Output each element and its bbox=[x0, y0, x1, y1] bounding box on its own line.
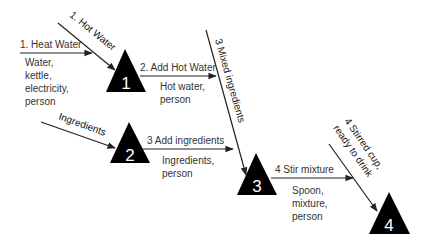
edge-heat-water: 1. Heat Water Water, kettle, electricity… bbox=[20, 39, 92, 107]
add-hot-water-resource-1: Hot water, bbox=[160, 81, 205, 92]
node-3[interactable]: 3 bbox=[237, 153, 277, 196]
add-ingredients-resource-2: person bbox=[162, 168, 193, 179]
stir-mixture-resource-1: Spoon, bbox=[292, 185, 324, 196]
heat-water-resource-4: person bbox=[25, 96, 56, 107]
node-1-label: 1 bbox=[121, 74, 130, 93]
process-diagram: 1. Heat Water Water, kettle, electricity… bbox=[0, 0, 429, 249]
node-4-label: 4 bbox=[384, 216, 393, 235]
node-2-label: 2 bbox=[125, 146, 134, 165]
add-hot-water-resource-2: person bbox=[160, 94, 191, 105]
stir-mixture-label: 4 Stir mixture bbox=[275, 164, 334, 175]
edge-stir-mixture: 4 Stir mixture Spoon, mixture, person bbox=[271, 164, 353, 222]
heat-water-label: 1. Heat Water bbox=[20, 39, 82, 50]
edge-add-ingredients: 3 Add ingredients Ingredients, person bbox=[143, 135, 233, 179]
mixed-ingredients-label: 3 Mixed ingredients bbox=[213, 38, 247, 124]
ingredients-label: Ingredients bbox=[57, 111, 107, 138]
node-2[interactable]: 2 bbox=[110, 122, 150, 165]
heat-water-resource-3: electricity, bbox=[25, 83, 69, 94]
node-4[interactable]: 4 bbox=[369, 192, 410, 235]
heat-water-resource-2: kettle, bbox=[25, 70, 52, 81]
edge-stirred-cup: 4 Stirred cup, ready to drink bbox=[329, 116, 385, 211]
add-ingredients-label: 3 Add ingredients bbox=[147, 135, 224, 146]
edge-mixed-ingredients: 3 Mixed ingredients bbox=[206, 30, 248, 175]
add-hot-water-label: 2. Add Hot Water bbox=[140, 62, 216, 73]
add-ingredients-resource-1: Ingredients, bbox=[162, 155, 214, 166]
stir-mixture-resource-3: person bbox=[292, 211, 323, 222]
heat-water-resource-1: Water, bbox=[25, 57, 54, 68]
node-3-label: 3 bbox=[252, 177, 261, 196]
edge-ingredients-in: Ingredients bbox=[41, 111, 115, 148]
stir-mixture-resource-2: mixture, bbox=[292, 198, 328, 209]
edge-add-hot-water: 2. Add Hot Water Hot water, person bbox=[140, 62, 216, 105]
